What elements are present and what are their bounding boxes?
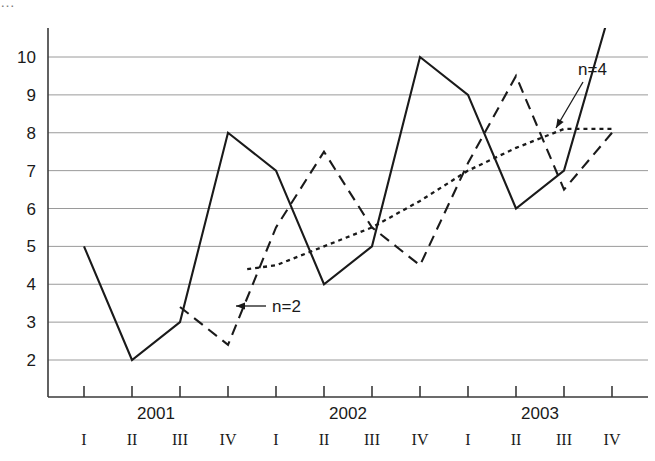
- x-axis-year-label: 2001: [137, 404, 175, 423]
- x-axis-year-label: 2002: [329, 404, 367, 423]
- y-axis-tick-label: 6: [27, 200, 36, 219]
- y-axis-tick-label: 2: [27, 351, 36, 370]
- x-axis-quarter-label: II: [127, 431, 138, 448]
- x-axis-quarter-label: II: [511, 431, 522, 448]
- x-axis-quarter-labels: IIIIIIIVIIIIIIIVIIIIIIIV: [81, 431, 621, 448]
- x-axis-year-labels: 200120022003: [137, 404, 559, 423]
- x-axis-quarter-label: III: [172, 431, 188, 448]
- y-axis-tick-label: 4: [27, 275, 36, 294]
- y-axis-tick-label: 5: [27, 237, 36, 256]
- x-axis-quarter-label: IV: [604, 431, 621, 448]
- series-line-n4: [247, 129, 612, 269]
- line-chart-svg: 2345678910 200120022003 IIIIIIIVIIIIIIIV…: [0, 0, 655, 461]
- x-axis-quarter-label: I: [81, 431, 86, 448]
- x-axis-quarter-label: IV: [220, 431, 237, 448]
- annotation-arrowhead: [236, 302, 245, 309]
- chart-container: … 2345678910 200120022003 IIIIIIIVIIIIII…: [0, 0, 655, 461]
- y-axis-tick-labels: 2345678910: [17, 48, 36, 370]
- y-axis-tick-label: 10: [17, 48, 36, 67]
- y-axis-tick-label: 8: [27, 124, 36, 143]
- x-axis-quarter-label: I: [273, 431, 278, 448]
- x-axis-quarter-label: III: [364, 431, 380, 448]
- x-axis-tickmarks: [84, 386, 612, 397]
- x-axis-quarter-label: III: [556, 431, 572, 448]
- annotation-label-n2: n=2: [272, 297, 301, 316]
- gridlines-group: [48, 57, 648, 360]
- x-axis-year-label: 2003: [521, 404, 559, 423]
- series-annotations-group: n=2n=4: [236, 60, 607, 316]
- annotation-label-n4: n=4: [578, 60, 607, 79]
- y-axis-tick-label: 9: [27, 86, 36, 105]
- x-axis-quarter-label: IV: [412, 431, 429, 448]
- y-axis-tick-label: 7: [27, 162, 36, 181]
- annotation-arrowhead: [556, 118, 564, 128]
- x-axis-quarter-label: II: [319, 431, 330, 448]
- x-axis-quarter-label: I: [465, 431, 470, 448]
- y-axis-tick-label: 3: [27, 313, 36, 332]
